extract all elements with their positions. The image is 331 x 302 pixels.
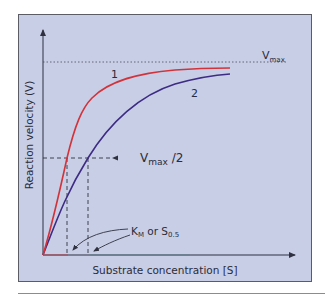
half-vmax-label: Vmax /2 — [140, 151, 183, 167]
curve-2-label: 2 — [191, 87, 198, 100]
bottom-separator — [18, 293, 325, 294]
michaelis-menten-chart: 1 2 Vmax Vmax /2 KM or S0.5 Substrate co… — [0, 0, 331, 302]
half-vmax-arrow-icon — [112, 156, 118, 161]
x-axis-label: Substrate concentration [S] — [92, 264, 237, 276]
curve-1-label: 1 — [111, 68, 118, 81]
vmax-label: Vmax — [262, 49, 285, 64]
km-arrow-1 — [73, 229, 128, 250]
km-label: KM or S0.5 — [131, 225, 179, 239]
km-arrow-2 — [94, 235, 130, 251]
y-axis-label: Reaction velocity (V) — [23, 81, 35, 190]
